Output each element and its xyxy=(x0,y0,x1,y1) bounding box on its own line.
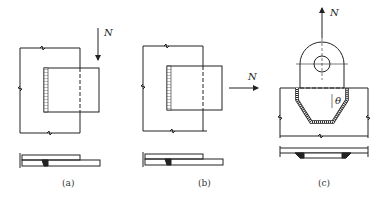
weld-hatch xyxy=(167,66,171,110)
caption-a: (a) xyxy=(62,178,74,188)
caption-c: (c) xyxy=(318,178,330,188)
force-label-b: N xyxy=(247,71,258,82)
force-label-a: N xyxy=(103,27,114,38)
weld-connection-diagram: N (a) N (b) xyxy=(0,0,381,198)
caption-b: (b) xyxy=(198,178,211,188)
panel-b xyxy=(141,44,258,167)
force-label-c-up: N xyxy=(329,7,340,18)
angle-label: θ xyxy=(335,95,341,106)
panel-a xyxy=(18,28,100,168)
weld-hatch xyxy=(44,68,48,112)
panel-c xyxy=(278,8,370,158)
